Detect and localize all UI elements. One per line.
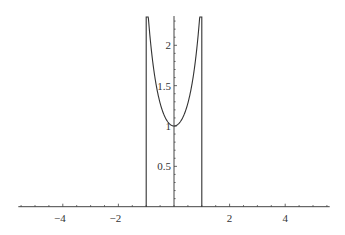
y-tick-label: 0.5 [157, 160, 171, 172]
axes [18, 16, 329, 207]
y-tick-label: 2 [166, 39, 172, 51]
x-tick-label: 4 [282, 212, 288, 224]
y-tick-label: 1.5 [157, 80, 171, 92]
function-plot: −4−2240.511.52 [0, 0, 345, 235]
tick-labels: −4−2240.511.52 [54, 39, 289, 223]
x-tick-label: −2 [110, 212, 122, 224]
x-tick-label: 2 [227, 212, 233, 224]
x-tick-label: −4 [54, 212, 66, 224]
